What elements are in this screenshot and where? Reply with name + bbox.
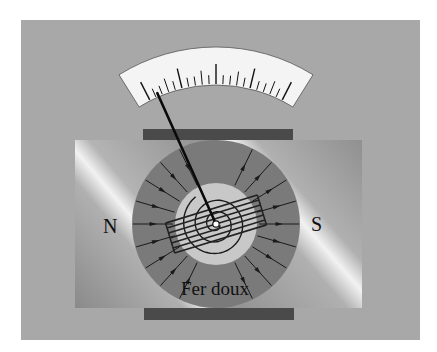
north-label: N	[103, 215, 117, 237]
core-label: Fer doux	[181, 278, 250, 299]
bottom-bar	[144, 308, 294, 320]
south-label: S	[311, 213, 322, 235]
galvanometer-diagram: N S Fer doux	[0, 0, 437, 352]
pivot	[213, 221, 219, 227]
top-bar	[143, 129, 293, 141]
